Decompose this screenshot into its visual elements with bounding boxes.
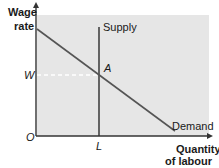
plot-background — [37, 15, 209, 136]
x-axis-label-line1: Quantity — [176, 143, 219, 155]
x-axis-label-line2: of labour — [165, 155, 212, 167]
x-axis-arrow-icon — [207, 133, 213, 139]
y-axis-label-line2: rate — [14, 20, 34, 32]
wage-label: W — [24, 69, 34, 81]
supply-label: Supply — [103, 21, 137, 33]
quantity-tick-label: L — [96, 140, 102, 152]
demand-label: Demand — [172, 120, 214, 132]
y-axis-label-line1: Wage — [8, 6, 37, 18]
origin-label: O — [26, 131, 35, 143]
equilibrium-point-label: A — [104, 62, 111, 74]
